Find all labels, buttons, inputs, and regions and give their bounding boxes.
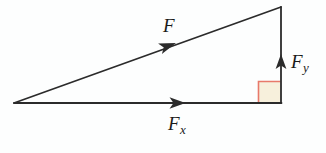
force-x-component-label: Fx xyxy=(168,114,185,133)
force-resultant-symbol: F xyxy=(163,15,175,36)
force-y-component-label: Fy xyxy=(291,52,308,71)
force-y-subscript: y xyxy=(303,60,309,75)
force-y-symbol: F xyxy=(291,51,303,72)
hypotenuse-line xyxy=(14,7,281,103)
force-resultant-label: F xyxy=(163,16,175,35)
force-x-subscript: x xyxy=(180,122,186,137)
force-vector-diagram: F Fx Fy xyxy=(0,0,326,153)
force-x-symbol: F xyxy=(168,113,180,134)
right-angle-marker xyxy=(259,82,281,103)
